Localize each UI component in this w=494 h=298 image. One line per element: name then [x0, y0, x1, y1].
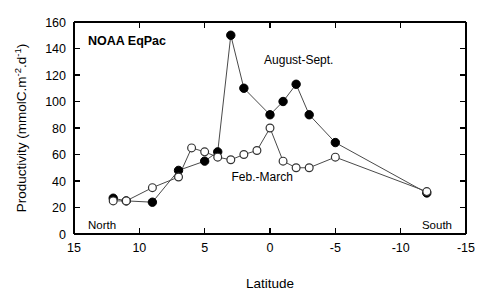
data-point-s0-8	[266, 111, 274, 119]
data-point-s1-3	[175, 173, 183, 181]
y-axis-title-sup2: -1	[12, 48, 23, 56]
data-point-s0-11	[305, 111, 313, 119]
x-tick-label-10: 10	[132, 241, 146, 255]
data-point-s1-10	[266, 124, 274, 132]
y-tick-label-100: 100	[45, 95, 66, 109]
data-point-s1-11	[279, 157, 287, 165]
data-point-s1-13	[305, 164, 313, 172]
x-tick-label--10: -10	[392, 241, 410, 255]
data-point-s1-8	[240, 151, 248, 159]
data-point-s1-9	[253, 147, 261, 155]
data-point-s1-14	[331, 153, 339, 161]
y-tick-label-140: 140	[45, 42, 66, 56]
data-point-s1-0	[109, 197, 117, 205]
data-point-s0-6	[227, 31, 235, 39]
south-label: South	[422, 219, 452, 231]
productivity-latitude-chart: 020406080100120140160 151050-5-10-15 NOA…	[0, 0, 494, 298]
data-point-s0-4	[200, 157, 208, 165]
data-point-s0-10	[292, 80, 300, 88]
y-tick-label-120: 120	[45, 69, 66, 83]
data-point-s1-4	[188, 144, 196, 152]
data-point-s0-2	[148, 198, 156, 206]
y-axis-title-prefix: Productivity (mmolC.m	[14, 76, 29, 212]
y-axis-title-suffix: )	[14, 44, 29, 49]
data-point-s1-2	[149, 184, 157, 192]
y-tick-label-80: 80	[52, 122, 66, 136]
y-tick-label-60: 60	[52, 148, 66, 162]
y-axis-title-mid: .d	[14, 57, 29, 68]
x-axis-title: Latitude	[246, 276, 294, 291]
data-point-s1-12	[292, 164, 300, 172]
y-tick-label-160: 160	[45, 16, 66, 30]
data-point-s0-9	[279, 97, 287, 105]
data-point-s1-6	[214, 153, 222, 161]
data-point-s1-7	[227, 156, 235, 164]
y-axis-title: Productivity (mmolC.m-2.d-1)	[12, 44, 30, 212]
x-axis-tick-labels: 151050-5-10-15	[67, 241, 475, 255]
data-point-s1-15	[423, 188, 431, 196]
data-point-s1-1	[122, 197, 130, 205]
north-label: North	[88, 219, 116, 231]
y-tick-label-20: 20	[52, 201, 66, 215]
data-point-s0-7	[240, 84, 248, 92]
y-axis-tick-labels: 020406080100120140160	[45, 16, 66, 242]
annotation-1: Feb.-March	[231, 170, 292, 184]
x-tick-label--15: -15	[457, 241, 475, 255]
data-point-s0-12	[331, 138, 339, 146]
annotation-0: August-Sept.	[264, 53, 333, 67]
data-point-s1-5	[201, 148, 209, 156]
panel-title: NOAA EqPac	[88, 34, 166, 48]
x-tick-label-15: 15	[67, 241, 81, 255]
x-tick-label--5: -5	[330, 241, 341, 255]
x-tick-label-0: 0	[267, 241, 274, 255]
x-tick-label-5: 5	[201, 241, 208, 255]
y-tick-label-40: 40	[52, 175, 66, 189]
y-axis-title-sup1: -2	[12, 68, 23, 76]
chart-figure: 020406080100120140160 151050-5-10-15 NOA…	[0, 0, 494, 298]
y-tick-label-0: 0	[59, 228, 66, 242]
